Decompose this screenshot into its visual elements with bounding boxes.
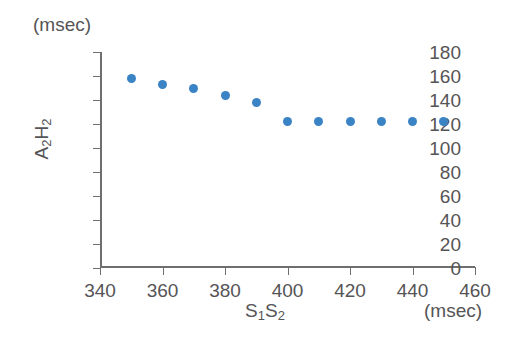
- data-point: [314, 117, 323, 126]
- data-point: [283, 117, 292, 126]
- y-tick-mark: [93, 196, 101, 197]
- plot-area: 020406080100120140160180 340360380400420…: [100, 52, 475, 268]
- y-tick-label: 0: [401, 259, 461, 278]
- y-tick-mark: [93, 244, 101, 245]
- y-axis-title: A2H2: [31, 94, 53, 184]
- y-tick-label: 20: [401, 235, 461, 254]
- x-tick-label: 460: [440, 281, 510, 300]
- y-tick-label: 60: [401, 187, 461, 206]
- y-tick-mark: [93, 148, 101, 149]
- x-tick-label: 360: [128, 281, 198, 300]
- y-axis-title-sub-2: 2: [39, 119, 54, 126]
- x-axis-title-text: S: [245, 300, 258, 321]
- x-axis-unit-label: (msec): [424, 300, 482, 322]
- data-point: [158, 80, 167, 89]
- data-point: [189, 84, 198, 93]
- data-point: [377, 117, 386, 126]
- y-tick-label: 80: [401, 163, 461, 182]
- y-axis-unit-label: (msec): [33, 14, 91, 36]
- x-tick-label: 400: [253, 281, 323, 300]
- y-tick-label: 160: [401, 67, 461, 86]
- x-axis-title-sub-2: 2: [278, 308, 285, 323]
- x-axis-title-text-2: S: [265, 300, 278, 321]
- x-tick-mark: [163, 267, 164, 275]
- y-axis-spine: [100, 52, 102, 268]
- y-tick-label: 100: [401, 139, 461, 158]
- x-tick-mark: [225, 267, 226, 275]
- y-tick-mark: [93, 220, 101, 221]
- data-point: [252, 98, 261, 107]
- y-tick-mark: [93, 172, 101, 173]
- y-tick-mark: [93, 52, 101, 53]
- data-point: [346, 117, 355, 126]
- data-point: [221, 91, 230, 100]
- x-tick-label: 420: [315, 281, 385, 300]
- x-tick-label: 340: [65, 281, 135, 300]
- y-tick-label: 40: [401, 211, 461, 230]
- y-tick-mark: [93, 124, 101, 125]
- y-tick-label: 140: [401, 91, 461, 110]
- x-tick-mark: [350, 267, 351, 275]
- y-axis-title-sub-1: 2: [39, 140, 54, 147]
- x-tick-mark: [475, 267, 476, 275]
- scatter-chart-figure: (msec) A2H2 020406080100120140160180 340…: [0, 0, 530, 339]
- x-tick-mark: [288, 267, 289, 275]
- x-axis-title-sub-1: 1: [258, 308, 265, 323]
- y-axis-title-text-2: H: [31, 126, 52, 140]
- x-tick-mark: [413, 267, 414, 275]
- y-tick-mark: [93, 76, 101, 77]
- y-tick-label: 180: [401, 43, 461, 62]
- x-tick-label: 380: [190, 281, 260, 300]
- y-axis-title-text: A: [31, 147, 52, 160]
- data-point: [127, 74, 136, 83]
- x-tick-mark: [100, 267, 101, 275]
- x-tick-label: 440: [378, 281, 448, 300]
- y-tick-mark: [93, 100, 101, 101]
